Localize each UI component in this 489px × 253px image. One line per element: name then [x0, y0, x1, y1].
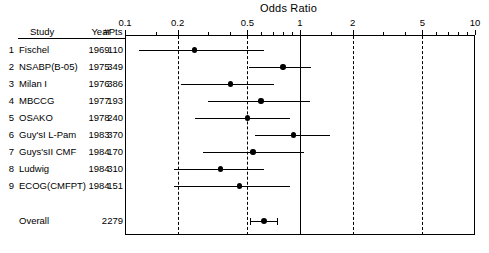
- effect-estimate-point: [250, 149, 255, 154]
- x-axis-tick-label: 2: [350, 17, 355, 28]
- effect-estimate-point: [245, 115, 250, 120]
- x-axis-tick-label: 10: [470, 17, 481, 28]
- confidence-interval-line: [195, 118, 291, 119]
- row-patient-count: 151: [99, 180, 123, 191]
- effect-estimate-point: [228, 81, 233, 86]
- x-axis-tick-label: 0.1: [118, 17, 131, 28]
- x-axis-tick-label: 0.5: [241, 17, 254, 28]
- x-axis-tick-label: 1: [297, 17, 302, 28]
- row-study-name: MBCCG: [19, 95, 54, 106]
- confidence-interval-cap: [277, 218, 278, 225]
- row-patient-count: 370: [99, 129, 123, 140]
- row-patient-count: 386: [99, 78, 123, 89]
- row-patient-count: 349: [99, 61, 123, 72]
- x-axis-tick-label: 0.2: [171, 17, 184, 28]
- x-axis-tick: [475, 30, 476, 35]
- row-index: 7: [4, 146, 14, 157]
- grid-line-dashed: [353, 36, 354, 235]
- effect-estimate-point: [218, 166, 223, 171]
- effect-estimate-point: [237, 183, 242, 188]
- confidence-interval-line: [174, 186, 291, 187]
- row-patient-count: 110: [99, 44, 123, 55]
- row-patient-count: 193: [99, 95, 123, 106]
- effect-estimate-point: [258, 98, 263, 103]
- row-patient-count: 310: [99, 163, 123, 174]
- row-index: 3: [4, 78, 14, 89]
- overall-effect-point: [261, 218, 267, 224]
- effect-estimate-point: [192, 47, 197, 52]
- row-study-name: Milan I: [19, 78, 47, 89]
- row-patient-count: 2279: [99, 215, 123, 226]
- row-index: 1: [4, 44, 14, 55]
- confidence-interval-line: [139, 50, 264, 51]
- row-patient-count: 240: [99, 112, 123, 123]
- row-patient-count: 170: [99, 146, 123, 157]
- chart-title: Odds Ratio: [260, 2, 317, 14]
- row-study-name: Guys'sII CMF: [19, 146, 76, 157]
- row-study-name: Fischel: [19, 44, 49, 55]
- row-study-name: OSAKO: [19, 112, 53, 123]
- row-index: 6: [4, 129, 14, 140]
- row-index: 2: [4, 61, 14, 72]
- confidence-interval-cap: [250, 218, 251, 225]
- effect-estimate-point: [280, 64, 285, 69]
- grid-line-dashed: [422, 36, 423, 235]
- row-study-name: Ludwig: [19, 163, 49, 174]
- row-study-name: Guy'sI L-Pam: [19, 129, 76, 140]
- row-study-name: Overall: [19, 215, 49, 226]
- grid-line-dashed: [247, 36, 248, 235]
- row-index: 8: [4, 163, 14, 174]
- row-index: 9: [4, 180, 14, 191]
- grid-line-dashed: [178, 36, 179, 235]
- x-axis-tick-label: 5: [420, 17, 425, 28]
- row-study-name: ECOG(CMFPT): [19, 180, 86, 191]
- row-index: 4: [4, 95, 14, 106]
- row-study-name: NSABP(B-05): [19, 61, 78, 72]
- row-index: 5: [4, 112, 14, 123]
- forest-plot-figure: Odds Ratio Study Year #Pts 1Fischel19691…: [0, 0, 489, 253]
- effect-estimate-point: [291, 132, 296, 137]
